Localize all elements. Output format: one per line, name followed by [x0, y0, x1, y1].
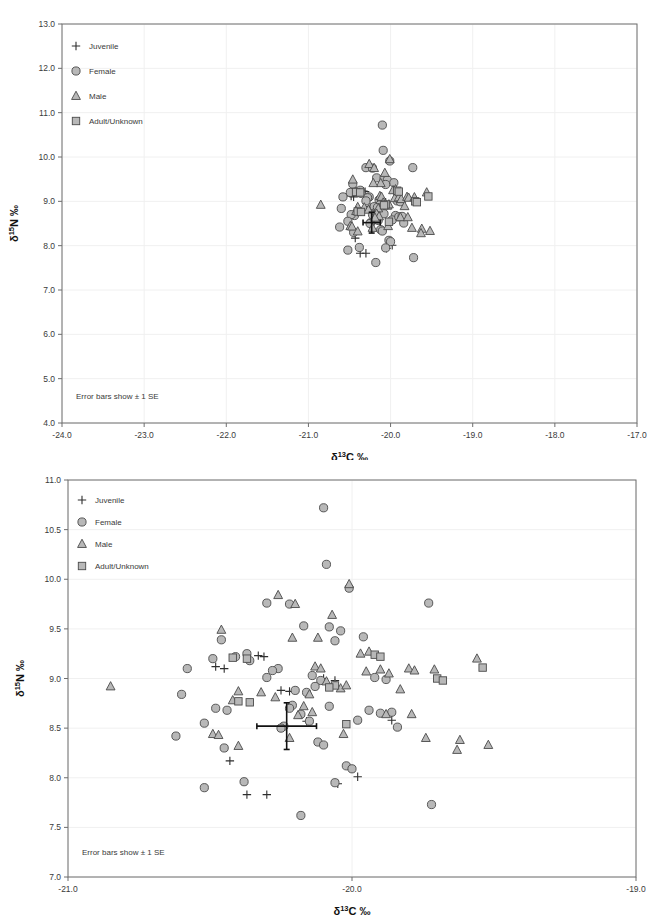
scatter-plot-svg-bottom: 7.07.58.08.59.09.510.010.511.0-21.0-20.0… — [0, 460, 662, 922]
data-point-female — [365, 706, 373, 714]
data-point-female — [336, 223, 344, 231]
data-point-juvenile — [243, 790, 251, 798]
data-point-female — [200, 784, 208, 792]
data-point-female — [348, 765, 356, 773]
error-bar-note: Error bars show ± 1 SE — [82, 848, 165, 857]
legend: JuvenileFemaleMaleAdult/Unknown — [78, 496, 149, 571]
data-point-juvenile — [353, 773, 361, 781]
y-tick-label: 12.0 — [38, 63, 55, 73]
data-point-female — [297, 811, 305, 819]
x-tick-label: -17.0 — [627, 430, 647, 440]
error-bar-note: Error bars show ± 1 SE — [76, 392, 159, 401]
y-tick-label: 10.0 — [44, 574, 61, 584]
annotation: Error bars show ± 1 SE — [76, 392, 159, 401]
y-tick-label: 7.5 — [49, 822, 61, 832]
data-point-female — [291, 686, 299, 694]
data-point-female — [223, 706, 231, 714]
data-point-female — [354, 716, 362, 724]
data-point-female — [393, 723, 401, 731]
data-point-legend-symbol-adult_unknown — [72, 117, 79, 124]
data-point-adult_unknown — [235, 698, 242, 705]
data-point-female — [220, 744, 228, 752]
data-point-male — [356, 649, 365, 657]
data-point-male — [473, 654, 482, 662]
legend-label-adult_unknown: Adult/Unknown — [95, 562, 149, 571]
data-point-female — [172, 732, 180, 740]
data-point-female — [320, 741, 328, 749]
data-point-female — [331, 637, 339, 645]
data-point-female — [300, 622, 308, 630]
data-point-legend-symbol-female — [78, 518, 86, 526]
y-tick-label: 8.5 — [49, 723, 61, 733]
data-points — [316, 121, 434, 267]
data-point-male — [380, 168, 389, 176]
data-point-legend-symbol-female — [72, 67, 80, 75]
data-point-adult_unknown — [377, 653, 384, 660]
data-point-female — [382, 244, 390, 252]
figure-page: 4.05.06.07.08.09.010.011.012.013.0-24.0-… — [0, 0, 662, 922]
data-point-legend-symbol-male — [78, 539, 87, 547]
data-point-female — [212, 704, 220, 712]
x-tick-label: -24.0 — [52, 430, 72, 440]
y-tick-label: 7.0 — [49, 872, 61, 882]
data-point-legend-symbol-adult_unknown — [78, 562, 85, 569]
data-point-male — [271, 693, 280, 701]
data-point-male — [288, 633, 297, 641]
data-point-juvenile — [277, 686, 285, 694]
data-point-male — [328, 610, 337, 618]
y-tick-label: 6.0 — [43, 329, 55, 339]
data-point-male — [234, 741, 243, 749]
data-point-female — [325, 702, 333, 710]
legend-label-female: Female — [89, 67, 116, 76]
legend-label-male: Male — [89, 92, 107, 101]
data-point-adult_unknown — [413, 199, 420, 206]
data-point-female — [379, 146, 387, 154]
data-point-male — [396, 685, 405, 693]
y-axis-title: δ15N ‰ — [13, 660, 26, 697]
data-point-juvenile — [211, 662, 219, 670]
data-point-adult_unknown — [439, 677, 446, 684]
data-point-female — [263, 599, 271, 607]
data-point-female — [183, 664, 191, 672]
legend-label-male: Male — [95, 540, 113, 549]
data-point-male — [339, 729, 348, 737]
y-tick-label: 8.0 — [43, 241, 55, 251]
x-tick-label: -19.0 — [463, 430, 483, 440]
x-tick-label: -18.0 — [545, 430, 565, 440]
data-point-juvenile — [260, 652, 268, 660]
data-point-male — [299, 701, 308, 709]
data-point-female — [331, 779, 339, 787]
scatter-plot-svg-top: 4.05.06.07.08.09.010.011.012.013.0-24.0-… — [0, 0, 662, 460]
data-point-adult_unknown — [425, 193, 432, 200]
data-point-male — [456, 735, 465, 743]
data-point-juvenile — [220, 664, 228, 672]
data-point-female — [409, 254, 417, 262]
y-tick-label: 11.0 — [45, 475, 61, 485]
data-point-female — [322, 560, 330, 568]
y-tick-label: 10.0 — [38, 152, 55, 162]
x-tick-label: -22.0 — [217, 430, 237, 440]
data-point-female — [355, 243, 363, 251]
legend-label-juvenile: Juvenile — [95, 496, 125, 505]
data-point-female — [390, 179, 398, 187]
data-point-male — [362, 667, 371, 675]
scatter-chart-bottom: 7.07.58.08.59.09.510.010.511.0-21.0-20.0… — [0, 460, 662, 922]
data-point-legend-symbol-male — [72, 91, 81, 99]
data-point-female — [344, 246, 352, 254]
x-axis-title-text: δ13C ‰ — [331, 450, 368, 460]
legend-label-female: Female — [95, 518, 122, 527]
x-axis-title: δ13C ‰ — [333, 904, 370, 917]
data-point-female — [200, 719, 208, 727]
legend: JuvenileFemaleMaleAdult/Unknown — [72, 42, 143, 126]
data-point-male — [407, 709, 416, 717]
y-tick-label: 4.0 — [43, 418, 55, 428]
x-tick-label: -21.0 — [299, 430, 319, 440]
data-point-adult_unknown — [246, 699, 253, 706]
y-tick-label: 10.5 — [44, 525, 61, 535]
data-point-female — [263, 673, 271, 681]
data-point-female — [178, 690, 186, 698]
data-point-male — [421, 733, 430, 741]
data-point-female — [427, 800, 435, 808]
x-tick-label: -20.0 — [342, 884, 362, 894]
data-point-female — [362, 197, 370, 205]
